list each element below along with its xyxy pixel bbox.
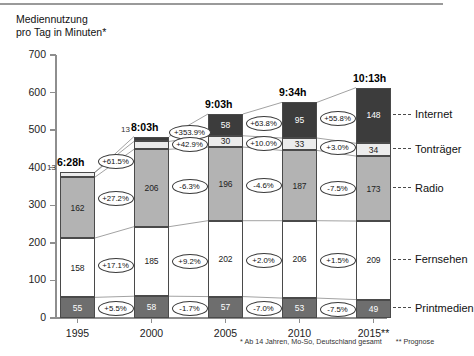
legend-dash-icon bbox=[393, 187, 411, 188]
y-axis-tick bbox=[50, 92, 56, 93]
y-axis-tick bbox=[50, 280, 56, 281]
bar-segment-value: 57 bbox=[221, 302, 230, 312]
growth-oval-radio: +27.2% bbox=[98, 191, 134, 206]
legend-item-tontraeger: Tonträger bbox=[393, 143, 461, 155]
bar-segment-printmedien: 55 bbox=[60, 297, 95, 318]
bar-segment-value: 33 bbox=[295, 139, 304, 149]
y-axis-tick-label: 200 bbox=[0, 236, 46, 248]
bar-segment-tontrager: 34 bbox=[356, 143, 391, 156]
legend-dash-icon bbox=[393, 114, 411, 115]
bar-segment-value: 158 bbox=[70, 263, 84, 273]
bar-segment-value: 206 bbox=[292, 254, 306, 264]
bar-segment-value: 58 bbox=[221, 120, 230, 130]
bar-segment-tontrager: 33 bbox=[282, 138, 317, 150]
bar-segment-internet: 148 bbox=[356, 88, 391, 144]
bar-segment-value: 196 bbox=[218, 179, 232, 189]
bar-segment-printmedien: 57 bbox=[208, 297, 243, 318]
bar-segment-tontrager bbox=[134, 141, 169, 149]
bar-total-label: 6:28h bbox=[57, 156, 84, 168]
legend-item-internet: Internet bbox=[393, 108, 452, 120]
x-axis-tick bbox=[151, 318, 152, 323]
growth-oval-tontrager: +10.0% bbox=[246, 136, 282, 151]
legend-item-printmedien: Printmedien bbox=[393, 302, 474, 314]
bar-outside-value: 13 bbox=[121, 125, 130, 134]
legend-dash-icon bbox=[393, 148, 411, 149]
bar-segment-value: 173 bbox=[366, 184, 380, 194]
growth-oval-printmedien: +5.5% bbox=[98, 301, 134, 316]
bar-segment-value: 34 bbox=[369, 145, 378, 155]
bar-segment-value: 55 bbox=[73, 303, 82, 313]
y-axis-tick-label: 0 bbox=[0, 311, 46, 323]
x-axis-tick-label: 2000 bbox=[122, 327, 182, 339]
y-axis-tick-label: 300 bbox=[0, 198, 46, 210]
bar-segment-value: 148 bbox=[366, 110, 380, 120]
bar-segment-fernsehen: 206 bbox=[282, 221, 317, 298]
bar-segment-tontrager bbox=[60, 172, 95, 177]
growth-oval-fernsehen: +9.2% bbox=[172, 254, 208, 269]
legend-item-label: Tonträger bbox=[415, 143, 461, 155]
growth-oval-printmedien: -7.5% bbox=[320, 302, 356, 317]
bar-total-label: 8:03h bbox=[131, 121, 158, 133]
footnote-forecast: ** Prognose bbox=[396, 337, 434, 346]
y-axis-tick-label: 400 bbox=[0, 161, 46, 173]
legend-item-label: Internet bbox=[415, 108, 452, 120]
bar-segment-tontrager: 30 bbox=[208, 136, 243, 147]
footnote: * Ab 14 Jahren, Mo-So, Deutschland gesam… bbox=[240, 337, 440, 346]
bar-segment-value: 185 bbox=[144, 256, 158, 266]
bar-segment-internet bbox=[134, 137, 169, 142]
y-axis-tick bbox=[50, 242, 56, 243]
growth-oval-fernsehen: +17.1% bbox=[98, 258, 134, 273]
bar-segment-radio: 187 bbox=[282, 150, 317, 220]
growth-oval-internet: +55.8% bbox=[320, 111, 356, 126]
legend-item-label: Printmedien bbox=[415, 302, 474, 314]
growth-oval-tontrager: +3.0% bbox=[320, 140, 356, 155]
y-axis-tick-label: 600 bbox=[0, 86, 46, 98]
bar-segment-value: 30 bbox=[221, 136, 230, 146]
x-axis-tick bbox=[77, 318, 78, 323]
x-axis-tick bbox=[225, 318, 226, 323]
bar-segment-internet: 58 bbox=[208, 114, 243, 136]
y-axis-tick bbox=[50, 54, 56, 55]
x-axis-tick-label: 1995 bbox=[48, 327, 108, 339]
bar-segment-fernsehen: 209 bbox=[356, 221, 391, 300]
bar-segment-value: 53 bbox=[295, 303, 304, 313]
bar-segment-radio: 173 bbox=[356, 156, 391, 221]
bar-segment-fernsehen: 202 bbox=[208, 221, 243, 297]
growth-oval-fernsehen: +2.0% bbox=[246, 253, 282, 268]
growth-oval-tontrager: +42.9% bbox=[172, 137, 208, 152]
footnote-main: * Ab 14 Jahren, Mo-So, Deutschland gesam… bbox=[240, 337, 382, 346]
y-axis-tick bbox=[50, 317, 56, 318]
growth-oval-printmedien: -7.0% bbox=[246, 301, 282, 316]
bar-segment-radio: 206 bbox=[134, 149, 169, 226]
growth-oval-radio: -4.6% bbox=[246, 178, 282, 193]
x-axis-tick bbox=[299, 318, 300, 323]
y-axis-tick-label: 100 bbox=[0, 273, 46, 285]
growth-oval-internet: +63.8% bbox=[246, 116, 282, 131]
bar-segment-value: 162 bbox=[70, 203, 84, 213]
bar-total-label: 10:13h bbox=[353, 72, 386, 84]
bar-segment-internet: 95 bbox=[282, 102, 317, 138]
bar-segment-printmedien: 58 bbox=[134, 296, 169, 318]
y-axis-tick bbox=[50, 205, 56, 206]
legend-dash-icon bbox=[393, 259, 411, 260]
bar-segment-value: 209 bbox=[366, 255, 380, 265]
bar-segment-value: 58 bbox=[147, 302, 156, 312]
y-axis-tick-label: 500 bbox=[0, 123, 46, 135]
bar-segment-value: 95 bbox=[295, 115, 304, 125]
bar-segment-radio: 196 bbox=[208, 147, 243, 221]
legend-item-fernsehen: Fernsehen bbox=[393, 253, 468, 265]
bar-2005: 572021963058 bbox=[208, 0, 243, 318]
bar-total-label: 9:03h bbox=[205, 98, 232, 110]
y-axis-tick bbox=[50, 129, 56, 130]
bar-2015: 4920917334148 bbox=[356, 0, 391, 318]
bar-segment-value: 49 bbox=[369, 304, 378, 314]
growth-oval-tontrager: +61.5% bbox=[98, 154, 134, 169]
bar-segment-printmedien: 53 bbox=[282, 298, 317, 318]
growth-oval-radio: -6.3% bbox=[172, 179, 208, 194]
bar-segment-fernsehen: 185 bbox=[134, 227, 169, 297]
bar-total-label: 9:34h bbox=[279, 86, 306, 98]
bar-outside-value: 13 bbox=[47, 163, 56, 172]
legend-item-label: Radio bbox=[415, 182, 444, 194]
bar-2010: 532061873395 bbox=[282, 0, 317, 318]
